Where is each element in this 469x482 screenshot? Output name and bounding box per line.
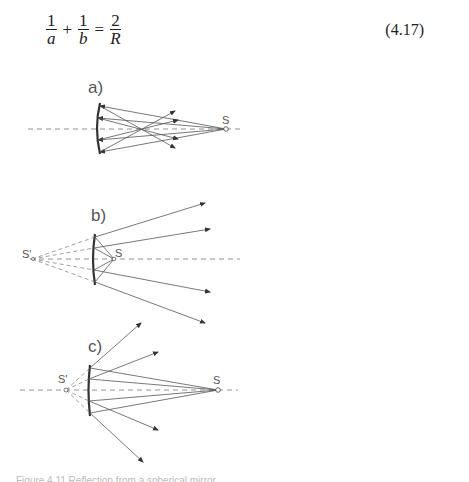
panel-b-label: b) xyxy=(91,206,106,225)
source-point xyxy=(224,127,229,132)
mirror-ray-diagram: a) S b) xyxy=(0,0,469,482)
source-label: S xyxy=(213,374,220,386)
source-point xyxy=(216,388,221,393)
panel-a: a) S xyxy=(28,78,244,154)
rays xyxy=(89,323,218,462)
concave-mirror xyxy=(89,365,91,416)
image-point xyxy=(32,258,35,261)
panel-b: b) S S' xyxy=(22,203,240,323)
image-label: S' xyxy=(22,248,31,260)
rays xyxy=(94,203,210,323)
concave-mirror xyxy=(93,234,95,285)
source-label: S xyxy=(222,114,229,126)
concave-mirror xyxy=(97,103,100,154)
image-label: S' xyxy=(58,373,67,385)
virtual-rays xyxy=(66,368,90,413)
panel-c: c) S S' xyxy=(20,323,238,462)
panel-a-label: a) xyxy=(88,78,103,97)
panel-c-label: c) xyxy=(88,337,102,356)
source-label: S xyxy=(115,247,122,259)
rays xyxy=(98,106,226,152)
image-point xyxy=(64,388,68,392)
virtual-rays xyxy=(32,237,95,282)
figure-caption: Figure 4.11 Reflection from a spherical … xyxy=(16,475,216,482)
